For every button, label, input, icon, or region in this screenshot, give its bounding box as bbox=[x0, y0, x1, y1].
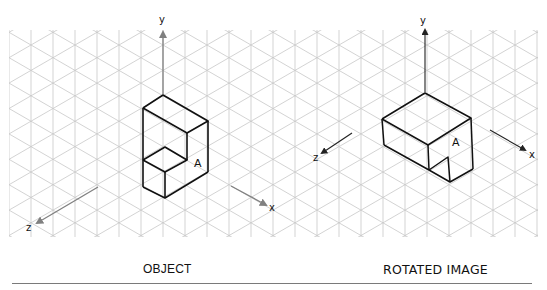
axis-labels: y x z A y x z A bbox=[26, 14, 535, 233]
rotated-image-caption: ROTATED IMAGE bbox=[383, 262, 488, 277]
x-axis-arrow bbox=[490, 130, 525, 150]
object-caption: OBJECT bbox=[143, 262, 192, 276]
x-axis-arrow bbox=[231, 186, 266, 205]
right-x-label: x bbox=[529, 149, 535, 160]
isometric-diagram: y x z A y x z A bbox=[0, 0, 547, 290]
left-y-label: y bbox=[159, 14, 165, 25]
right-point-label: A bbox=[452, 136, 460, 149]
left-z-label: z bbox=[26, 222, 31, 233]
right-z-label: z bbox=[313, 152, 318, 163]
right-y-label: y bbox=[420, 15, 426, 26]
left-point-label: A bbox=[194, 157, 202, 170]
object-shape bbox=[143, 95, 208, 198]
isometric-grid bbox=[0, 0, 547, 290]
baseline-rule bbox=[12, 283, 532, 284]
left-x-label: x bbox=[269, 202, 275, 213]
z-axis-arrow bbox=[322, 133, 352, 153]
